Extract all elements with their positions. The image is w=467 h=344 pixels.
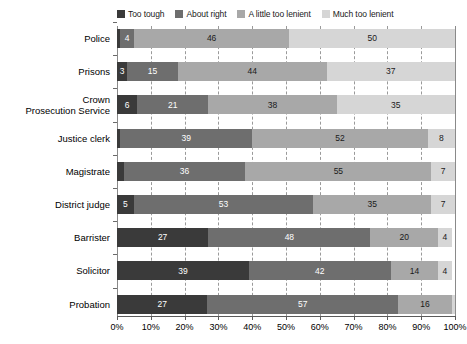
bar-segment: 7	[431, 162, 455, 181]
bar-row: 139528	[117, 129, 455, 148]
bar-segment-value: 16	[420, 300, 429, 309]
bar-segment: 20	[370, 228, 438, 247]
x-axis-tick	[218, 316, 219, 320]
y-axis-tick	[113, 288, 117, 289]
legend-label: About right	[186, 10, 226, 19]
bar-segment-value: 35	[367, 200, 376, 209]
bar-segment-value: 27	[158, 233, 167, 242]
bar-row: 236557	[117, 162, 455, 181]
bar-segment-value: 57	[298, 300, 307, 309]
bar-segment: 35	[313, 195, 431, 214]
bar-segment: 57	[207, 295, 398, 314]
x-axis-tick-label: 100%	[443, 322, 466, 332]
bar-segment: 37	[327, 62, 455, 81]
bar-segment-value: 27	[157, 300, 166, 309]
legend-item: A little too lenient	[237, 10, 310, 19]
bar-segment: 39	[117, 261, 249, 280]
x-axis-tick	[117, 316, 118, 320]
bar-segment: 39	[120, 129, 252, 148]
bar-segment-value: 5	[123, 200, 128, 209]
x-axis-tick	[354, 316, 355, 320]
bar-segment: 44	[178, 62, 327, 81]
y-axis-tick	[113, 221, 117, 222]
y-axis-tick	[113, 254, 117, 255]
legend-swatch-icon	[117, 10, 125, 18]
bar-segment-value: 53	[219, 200, 228, 209]
bar-segment-value: 44	[247, 67, 256, 76]
bar-segment-value: 52	[335, 134, 344, 143]
bar-segment-value: 4	[442, 233, 447, 242]
bar-segment-value: 50	[367, 34, 376, 43]
x-axis-tick	[286, 316, 287, 320]
bar-segment-value: 39	[178, 267, 187, 276]
legend-item: Much too lenient	[322, 10, 394, 19]
x-axis-tick-label: 90%	[412, 322, 430, 332]
bar-segment-value: 46	[207, 34, 216, 43]
bar-segment-value: 21	[168, 101, 177, 110]
bar-segment: 35	[337, 95, 455, 114]
x-axis-tick-label: 20%	[176, 322, 194, 332]
x-axis-tick-label: 70%	[345, 322, 363, 332]
y-axis-tick	[113, 55, 117, 56]
chart-legend: Too toughAbout rightA little too lenient…	[117, 6, 457, 22]
legend-label: Too tough	[128, 10, 164, 19]
x-axis-tick	[455, 316, 456, 320]
bar-segment-value: 7	[441, 200, 446, 209]
bar-segment: 1	[452, 295, 455, 314]
category-label: Crown Prosecution Service	[0, 94, 110, 116]
stacked-bar-chart: Too toughAbout rightA little too lenient…	[0, 0, 467, 344]
bar-segment-value: 4	[125, 34, 130, 43]
bar-segment: 5	[117, 195, 134, 214]
x-axis-tick	[185, 316, 186, 320]
bar-segment: 8	[428, 129, 455, 148]
bar-segment-value: 48	[285, 233, 294, 242]
bar-segment: 4	[438, 261, 452, 280]
legend-item: Too tough	[117, 10, 164, 19]
bar-segment-value: 35	[391, 101, 400, 110]
bar-segment: 7	[431, 195, 455, 214]
category-label: Probation	[0, 299, 110, 310]
bar-segment-value: 42	[315, 267, 324, 276]
bar-segment: 42	[249, 261, 391, 280]
bar-segment-value: 8	[439, 134, 444, 143]
legend-label: A little too lenient	[248, 10, 310, 19]
category-label: Justice clerk	[0, 133, 110, 144]
x-axis-tick-label: 30%	[209, 322, 227, 332]
x-axis-tick-label: 10%	[142, 322, 160, 332]
bar-row: 553357	[117, 195, 455, 214]
y-axis-tick	[113, 155, 117, 156]
bar-row: 6213835	[117, 95, 455, 114]
bar-segment: 46	[134, 29, 289, 48]
bar-segment: 55	[245, 162, 431, 181]
bar-segment: 14	[391, 261, 438, 280]
bar-segment: 50	[289, 29, 455, 48]
x-axis-tick-label: 50%	[277, 322, 295, 332]
x-axis-tick	[387, 316, 388, 320]
legend-label: Much too lenient	[333, 10, 394, 19]
bar-segment: 27	[117, 228, 208, 247]
category-label: Prisons	[0, 66, 110, 77]
bar-segment: 4	[438, 228, 452, 247]
bar-segment-value: 20	[400, 233, 409, 242]
x-axis-tick	[421, 316, 422, 320]
x-axis-tick-label: 40%	[243, 322, 261, 332]
bar-segment-value: 14	[410, 267, 419, 276]
bar-segment-value: 4	[442, 267, 447, 276]
bar-segment: 16	[398, 295, 452, 314]
bar-row: 3154437	[117, 62, 455, 81]
x-axis-tick-label: 0%	[110, 322, 123, 332]
bar-row: 2748204	[117, 228, 455, 247]
category-label: District judge	[0, 199, 110, 210]
y-axis-tick	[113, 122, 117, 123]
bar-segment: 4	[120, 29, 134, 48]
y-axis-tick	[113, 22, 117, 23]
bar-segment-value: 7	[441, 167, 446, 176]
legend-swatch-icon	[322, 10, 330, 18]
bar-segment-value: 39	[182, 134, 191, 143]
bar-segment: 38	[208, 95, 336, 114]
x-axis-tick	[151, 316, 152, 320]
bar-segment-value: 6	[125, 101, 130, 110]
plot-area: 4465031544376213835139528236557553357274…	[117, 26, 455, 316]
bar-row: 2757161	[117, 295, 455, 314]
legend-swatch-icon	[175, 10, 183, 18]
